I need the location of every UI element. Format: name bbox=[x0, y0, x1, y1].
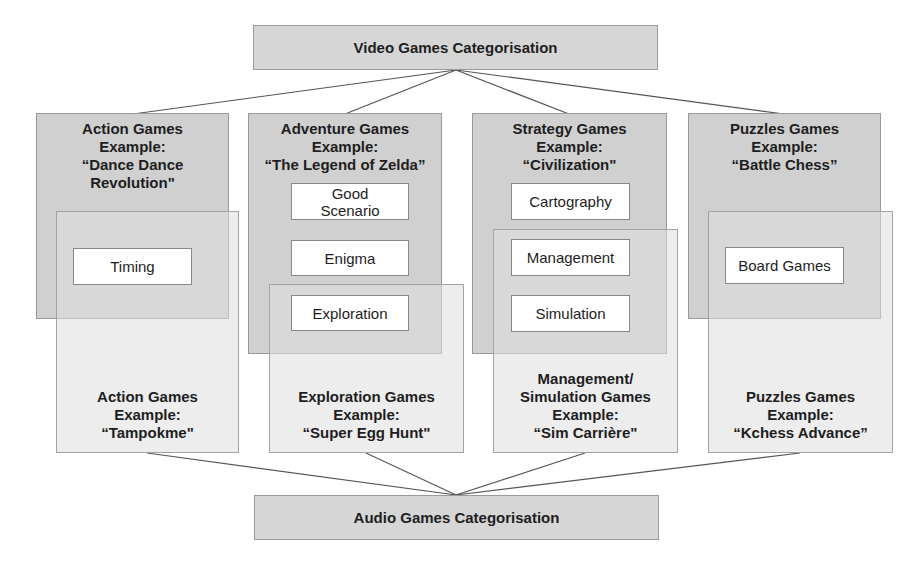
feature-exploration-label: Exploration bbox=[312, 305, 387, 322]
feature-board-games-label: Board Games bbox=[738, 257, 831, 274]
feature-timing: Timing bbox=[73, 248, 192, 285]
video-games-categorisation-label: Video Games Categorisation bbox=[354, 39, 558, 56]
feature-good-scenario-line1: Good bbox=[332, 185, 369, 202]
feature-enigma: Enigma bbox=[291, 240, 409, 276]
feature-simulation: Simulation bbox=[511, 295, 630, 332]
feature-management: Management bbox=[511, 239, 630, 276]
feature-management-label: Management bbox=[527, 249, 615, 266]
audio-action-games-title: Action Games Example: “Tampokme" bbox=[57, 388, 238, 442]
feature-good-scenario-line2: Scenario bbox=[320, 202, 379, 219]
audio-management-simulation-games-title: Management/ Simulation Games Example: “S… bbox=[494, 370, 677, 442]
feature-cartography: Cartography bbox=[511, 183, 630, 220]
audio-games-categorisation-node: Audio Games Categorisation bbox=[254, 495, 659, 540]
video-adventure-games-title: Adventure Games Example: “The Legend of … bbox=[249, 120, 441, 174]
video-strategy-games-title: Strategy Games Example: “Civilization" bbox=[473, 120, 666, 174]
feature-good-scenario: Good Scenario bbox=[291, 183, 409, 220]
video-puzzles-games-title: Puzzles Games Example: “Battle Chess” bbox=[689, 120, 880, 174]
feature-exploration: Exploration bbox=[291, 295, 409, 331]
video-action-games-title: Action Games Example: “Dance Dance Revol… bbox=[37, 120, 228, 192]
feature-board-games: Board Games bbox=[725, 247, 844, 284]
audio-exploration-games-title: Exploration Games Example: “Super Egg Hu… bbox=[270, 388, 463, 442]
audio-puzzles-games-title: Puzzles Games Example: “Kchess Advance” bbox=[709, 388, 892, 442]
feature-enigma-label: Enigma bbox=[325, 250, 376, 267]
feature-simulation-label: Simulation bbox=[535, 305, 605, 322]
video-games-categorisation-node: Video Games Categorisation bbox=[253, 25, 658, 70]
feature-cartography-label: Cartography bbox=[529, 193, 612, 210]
audio-games-categorisation-label: Audio Games Categorisation bbox=[354, 509, 560, 526]
feature-timing-label: Timing bbox=[110, 258, 154, 275]
